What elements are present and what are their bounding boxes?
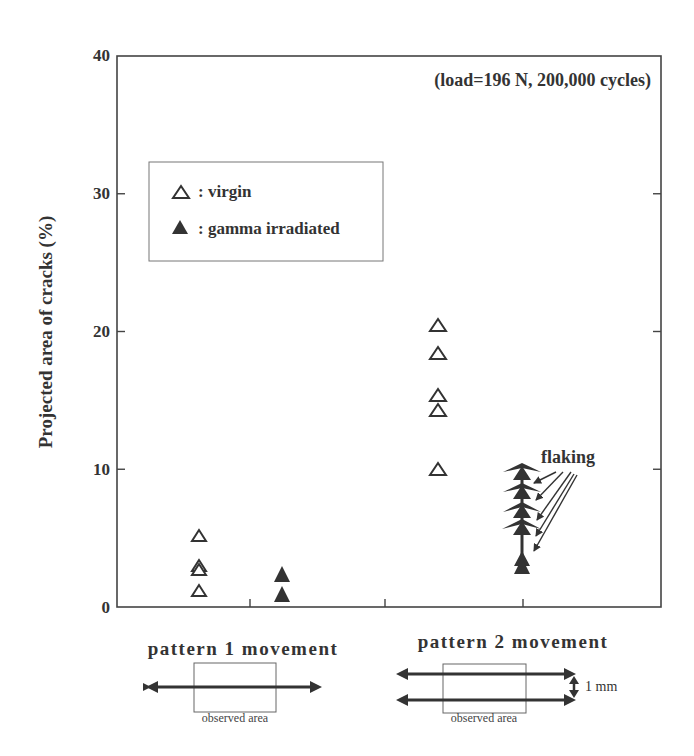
- conditions-label: (load=196 N, 200,000 cycles): [434, 70, 651, 91]
- y-tick-20: 20: [93, 322, 110, 341]
- y-tick-0: 0: [102, 598, 111, 617]
- y-tick-30: 30: [93, 184, 110, 203]
- y-tick-40: 40: [93, 46, 110, 65]
- pattern2-diagram: pattern 2 movement 1 mm observed area: [396, 631, 617, 725]
- legend-virgin-label: : virgin: [198, 182, 252, 201]
- series-virgin-pattern1: [192, 530, 206, 596]
- series-gamma-pattern1: [274, 566, 290, 602]
- series-gamma-pattern2: [502, 463, 541, 574]
- spacing-label: 1 mm: [585, 679, 617, 694]
- legend-gamma-label: : gamma irradiated: [198, 219, 340, 238]
- legend: : virgin : gamma irradiated: [149, 162, 383, 261]
- y-axis-title: Projected area of cracks (%): [35, 216, 57, 448]
- plot-frame: [117, 56, 661, 607]
- flaking-label: flaking: [541, 447, 595, 467]
- pattern2-observed-area-label: observed area: [451, 711, 518, 725]
- pattern1-observed-area-label: observed area: [202, 711, 269, 725]
- pattern2-title: pattern 2 movement: [418, 631, 609, 652]
- flaking-arrows: [534, 472, 577, 551]
- chart: 0 10 20 30 40 Projected area of cracks (…: [0, 0, 694, 756]
- y-tick-10: 10: [93, 460, 110, 479]
- series-virgin-pattern2: [430, 319, 446, 475]
- observed-area-box: [443, 664, 526, 713]
- pattern1-title: pattern 1 movement: [148, 638, 339, 659]
- pattern1-diagram: pattern 1 movement observed area: [146, 638, 338, 725]
- y-axis-tick-labels: 0 10 20 30 40: [93, 46, 110, 617]
